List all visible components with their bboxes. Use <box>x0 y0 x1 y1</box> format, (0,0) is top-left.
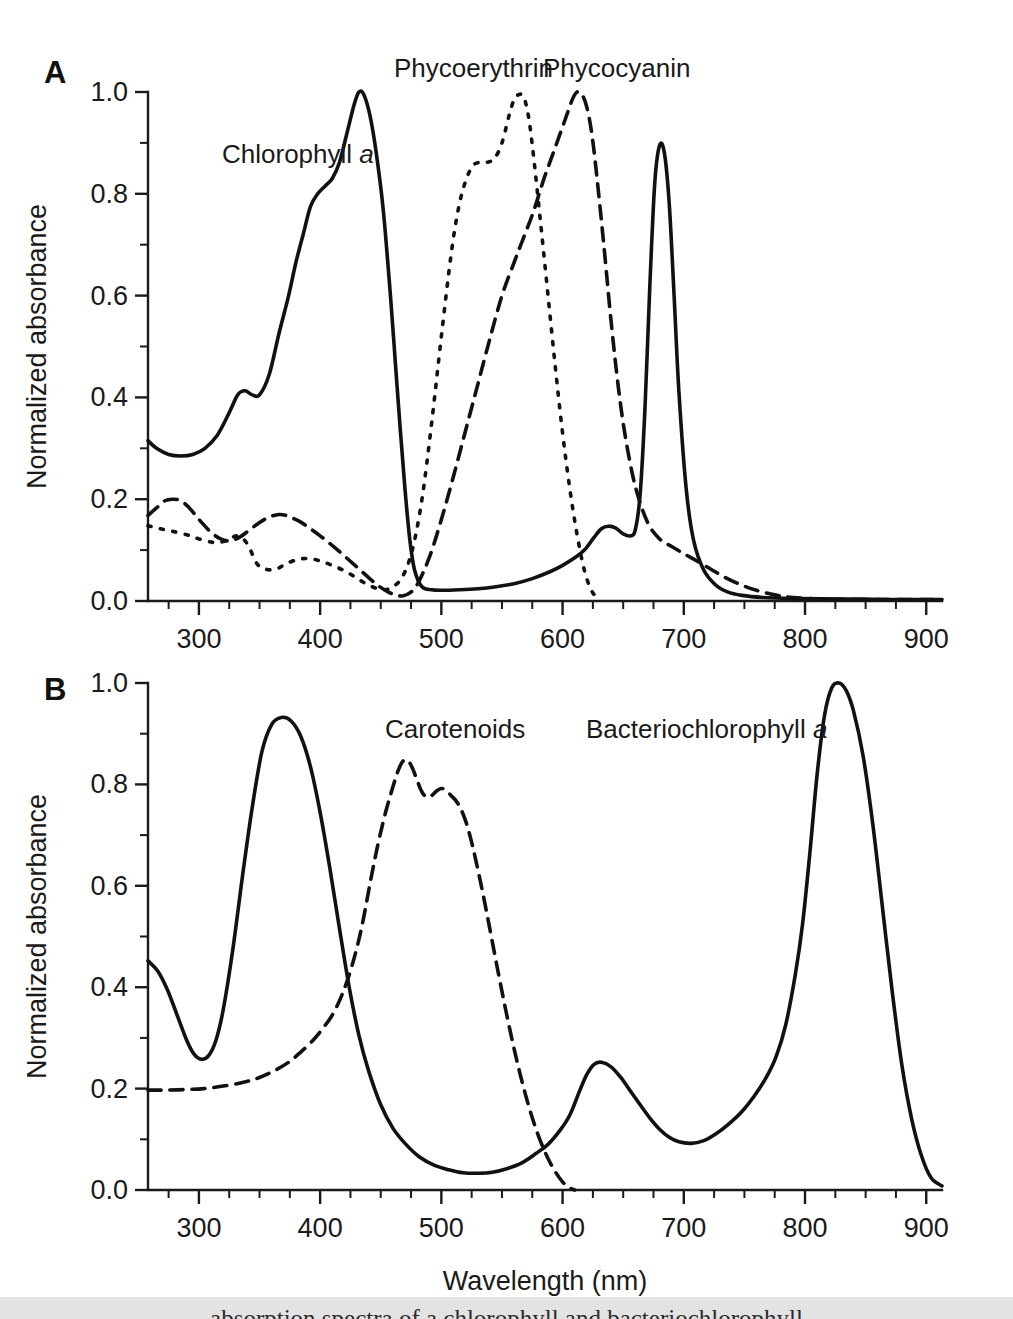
x-tick-label: 700 <box>661 1213 706 1243</box>
y-tick-label: 0.2 <box>90 1074 128 1104</box>
y-tick-label: 0.8 <box>90 769 128 799</box>
series-label-phycoerythrin: Phycoerythrin <box>394 53 553 83</box>
y-tick-label: 0.6 <box>90 281 128 311</box>
x-tick-label: 600 <box>540 1213 585 1243</box>
x-axis-title: Wavelength (nm) <box>443 1266 648 1296</box>
y-tick-label: 0.4 <box>90 382 128 412</box>
series-label-chlorophyll-a: Chlorophyll a <box>222 139 374 169</box>
spectra-figure: 0.00.20.40.60.81.0300400500600700800900A… <box>0 0 1013 1319</box>
y-tick-label: 0.6 <box>90 871 128 901</box>
y-tick-label: 1.0 <box>90 77 128 107</box>
x-tick-label: 300 <box>176 1213 221 1243</box>
x-tick-label: 600 <box>540 624 585 654</box>
plot-panel-b: 0.00.20.40.60.81.0300400500600700800900B… <box>22 668 949 1296</box>
panel-letter-a: A <box>44 55 66 90</box>
y-tick-label: 0.0 <box>90 586 128 616</box>
curve-carotenoids <box>148 760 575 1190</box>
y-tick-label: 0.4 <box>90 972 128 1002</box>
x-tick-label: 400 <box>298 624 343 654</box>
y-axis-title: Normalized absorbance <box>22 204 52 489</box>
series-label-phycocyanin: Phycocyanin <box>543 53 690 83</box>
y-tick-label: 0.8 <box>90 179 128 209</box>
curve-phycoerythrin <box>148 94 599 600</box>
axis-lines <box>148 683 942 1190</box>
panel-letter-b: B <box>44 672 66 707</box>
curve-bacteriochlorophyll-a <box>148 683 942 1186</box>
x-tick-label: 500 <box>419 1213 464 1243</box>
x-tick-label: 500 <box>419 624 464 654</box>
x-tick-label: 700 <box>661 624 706 654</box>
x-tick-label: 400 <box>298 1213 343 1243</box>
y-tick-label: 1.0 <box>90 668 128 698</box>
series-label-carotenoids: Carotenoids <box>385 714 525 744</box>
series-label-bacteriochlorophyll-a: Bacteriochlorophyll a <box>586 714 827 744</box>
figure-caption: absorption spectra of a chlorophyll and … <box>0 1305 1013 1319</box>
x-tick-label: 300 <box>176 624 221 654</box>
y-axis-title: Normalized absorbance <box>22 794 52 1079</box>
x-tick-label: 900 <box>904 1213 949 1243</box>
figure-root: 0.00.20.40.60.81.0300400500600700800900A… <box>0 0 1013 1319</box>
x-tick-label: 800 <box>782 624 827 654</box>
x-tick-label: 900 <box>904 624 949 654</box>
plot-panel-a: 0.00.20.40.60.81.0300400500600700800900A… <box>22 53 949 654</box>
y-tick-label: 0.2 <box>90 484 128 514</box>
y-tick-label: 0.0 <box>90 1175 128 1205</box>
x-tick-label: 800 <box>782 1213 827 1243</box>
